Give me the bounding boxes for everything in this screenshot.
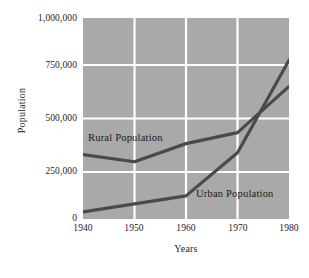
y-axis-tick-label: 500,000 (45, 114, 77, 124)
x-axis-tick-label: 1960 (166, 224, 206, 234)
x-axis-title: Years (83, 243, 289, 254)
population-line-chart: Population 1,000,000 750,000 500,000 250… (0, 0, 309, 278)
y-axis-tick-label: 750,000 (45, 61, 77, 71)
y-axis-title: Population (16, 71, 27, 151)
x-axis-tick-label: 1950 (114, 224, 154, 234)
y-axis-tick-label: 1,000,000 (38, 14, 77, 24)
x-axis-tick-label: 1970 (218, 224, 258, 234)
series-label-rural: Rural Population (88, 132, 163, 143)
x-axis-tick-label: 1980 (269, 224, 309, 234)
y-axis-tick-label: 250,000 (45, 167, 77, 177)
series-label-urban: Urban Population (196, 188, 274, 199)
x-axis-tick-label: 1940 (63, 224, 103, 234)
